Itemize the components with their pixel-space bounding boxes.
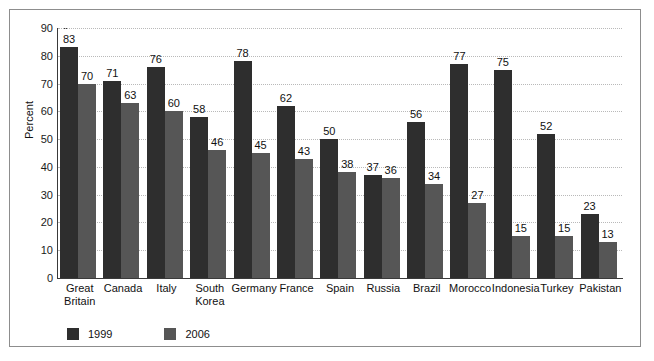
bar-group: 5215 [535, 28, 578, 278]
bar-1999[interactable] [494, 70, 512, 278]
y-tick-label: 70 [41, 79, 53, 90]
bar-2006[interactable] [382, 178, 400, 278]
x-category-label: Canada [101, 282, 144, 295]
x-category-label: Russia [362, 282, 405, 295]
chart-frame: Percent 9080706050403020100 837071637660… [9, 9, 641, 347]
bar-value-label-2006: 36 [380, 165, 402, 176]
bar-2006[interactable] [599, 242, 617, 278]
bar-1999[interactable] [450, 64, 468, 278]
legend-item[interactable]: 2006 [164, 328, 209, 340]
bar-value-label-2006: 15 [510, 223, 532, 234]
bar-group: 7163 [101, 28, 144, 278]
bar-value-label-2006: 46 [206, 137, 228, 148]
legend-label: 1999 [88, 329, 112, 340]
y-tick-label: 30 [41, 190, 53, 201]
bar-value-label-1999: 52 [535, 121, 557, 132]
bar-1999[interactable] [364, 175, 382, 278]
bar-2006[interactable] [121, 103, 139, 278]
bar-1999[interactable] [581, 214, 599, 278]
y-tick-label: 20 [41, 217, 53, 228]
x-category-label: Brazil [405, 282, 448, 295]
bar-1999[interactable] [407, 122, 425, 278]
bar-value-label-2006: 38 [336, 159, 358, 170]
y-tick-label: 0 [47, 273, 53, 284]
bar-groups: 8370716376605846784562435038373656347727… [58, 28, 622, 278]
bar-group: 3736 [362, 28, 405, 278]
bar-value-label-2006: 13 [597, 229, 619, 240]
y-tick-label: 60 [41, 106, 53, 117]
bar-2006[interactable] [165, 111, 183, 278]
bar-1999[interactable] [234, 61, 252, 278]
y-tick-label: 40 [41, 162, 53, 173]
bar-value-label-2006: 70 [76, 71, 98, 82]
bar-value-label-2006: 63 [119, 90, 141, 101]
bar-1999[interactable] [60, 47, 78, 278]
bar-value-label-2006: 43 [293, 146, 315, 157]
bar-value-label-1999: 23 [579, 201, 601, 212]
bar-2006[interactable] [555, 236, 573, 278]
x-category-label: South Korea [188, 282, 231, 308]
x-axis-category-labels: Great BritainCanadaItalySouth KoreaGerma… [58, 282, 622, 322]
x-category-label: Pakistan [579, 282, 622, 295]
x-category-label: France [275, 282, 318, 295]
x-category-label: Indonesia [492, 282, 535, 295]
bar-1999[interactable] [103, 81, 121, 278]
legend-swatch-icon [164, 328, 176, 340]
x-category-label: Turkey [535, 282, 578, 295]
bar-2006[interactable] [78, 84, 96, 278]
bar-group: 7515 [492, 28, 535, 278]
bar-group: 5038 [318, 28, 361, 278]
bar-2006[interactable] [295, 159, 313, 278]
x-axis-line [57, 278, 623, 279]
bar-value-label-1999: 50 [318, 126, 340, 137]
bar-group: 7660 [145, 28, 188, 278]
bar-value-label-1999: 56 [405, 109, 427, 120]
y-tick-label: 90 [41, 23, 53, 34]
bar-value-label-2006: 45 [250, 140, 272, 151]
plot-area: 8370716376605846784562435038373656347727… [58, 28, 622, 278]
bar-group: 7727 [448, 28, 491, 278]
x-category-label: Germany [232, 282, 275, 295]
bar-2006[interactable] [338, 172, 356, 278]
x-category-label: Italy [145, 282, 188, 295]
bar-value-label-2006: 15 [553, 223, 575, 234]
bar-2006[interactable] [468, 203, 486, 278]
bar-value-label-1999: 83 [58, 34, 80, 45]
bar-value-label-1999: 62 [275, 93, 297, 104]
bar-group: 8370 [58, 28, 101, 278]
bar-2006[interactable] [512, 236, 530, 278]
legend-label: 2006 [185, 329, 209, 340]
bar-value-label-1999: 71 [101, 68, 123, 79]
chart-legend: 19992006 [67, 328, 262, 340]
bar-value-label-1999: 58 [188, 104, 210, 115]
bar-value-label-2006: 34 [423, 171, 445, 182]
bar-1999[interactable] [277, 106, 295, 278]
x-category-label: Morocco [448, 282, 491, 295]
y-tick-label: 50 [41, 134, 53, 145]
bar-value-label-1999: 77 [448, 51, 470, 62]
bar-value-label-2006: 60 [163, 98, 185, 109]
bar-2006[interactable] [252, 153, 270, 278]
bar-group: 6243 [275, 28, 318, 278]
legend-swatch-icon [67, 328, 79, 340]
x-category-label: Spain [318, 282, 361, 295]
bar-value-label-1999: 76 [145, 54, 167, 65]
bar-group: 2313 [579, 28, 622, 278]
bar-group: 5846 [188, 28, 231, 278]
bar-value-label-1999: 78 [232, 48, 254, 59]
y-tick-label: 80 [41, 51, 53, 62]
bar-value-label-1999: 75 [492, 57, 514, 68]
bar-2006[interactable] [425, 184, 443, 278]
bar-1999[interactable] [537, 134, 555, 278]
x-category-label: Great Britain [58, 282, 101, 308]
y-tick-label: 10 [41, 245, 53, 256]
bar-group: 5634 [405, 28, 448, 278]
y-axis-tick-labels: 9080706050403020100 [20, 28, 53, 279]
legend-item[interactable]: 1999 [67, 328, 112, 340]
bar-group: 7845 [232, 28, 275, 278]
bar-2006[interactable] [208, 150, 226, 278]
bar-value-label-2006: 27 [466, 190, 488, 201]
